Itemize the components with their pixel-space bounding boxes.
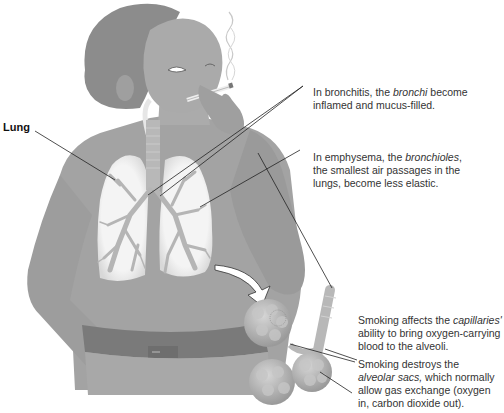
- capillaries-text-pre: Smoking affects the: [358, 314, 453, 326]
- bronchitis-text-pre: In bronchitis, the: [313, 86, 393, 98]
- lung-label: Lung: [3, 121, 30, 133]
- alveolar-caption: Smoking destroys the alveolar sacs, whic…: [358, 358, 498, 410]
- capillaries-term: capillaries': [453, 314, 502, 326]
- capillaries-caption: Smoking affects the capillaries' ability…: [358, 314, 504, 353]
- emphysema-term: bronchioles: [405, 151, 459, 163]
- emphysema-text-pre: In emphysema, the: [313, 151, 405, 163]
- bronchitis-caption: In bronchitis, the bronchi become inflam…: [313, 86, 498, 112]
- alveolar-term: alveolar sacs,: [358, 371, 422, 383]
- alveolar-text-pre: Smoking destroys the: [358, 358, 459, 370]
- capillaries-text-post: ability to bring oxygen-carrying blood t…: [358, 327, 500, 352]
- bronchitis-term: bronchi: [393, 86, 427, 98]
- emphysema-caption: In emphysema, the bronchioles, the small…: [313, 151, 473, 190]
